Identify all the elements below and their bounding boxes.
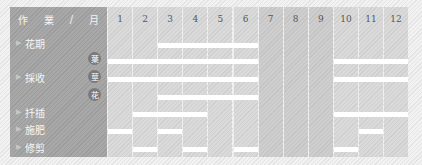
activity-bar <box>108 129 132 134</box>
activity-bar <box>133 112 207 117</box>
activity-bar <box>334 112 408 117</box>
activity-bar <box>158 43 257 48</box>
activity-bar <box>108 59 258 64</box>
row-label-flowering: ▶ 花期 <box>16 36 45 50</box>
activity-bar <box>334 147 358 152</box>
month-label: 11 <box>359 7 383 31</box>
month-label: 6 <box>234 7 258 31</box>
bullet-icon: ▶ <box>16 39 21 47</box>
activity-bar <box>158 95 257 100</box>
activity-bar <box>234 147 258 152</box>
badge-flower: 花 <box>88 88 101 101</box>
row-label-cutting: ▶ 扦插 <box>16 105 45 119</box>
month-label: 9 <box>309 7 333 31</box>
activity-bar <box>334 77 408 82</box>
row-label-harvest: ▶ 採收 <box>16 70 45 84</box>
row-label-pruning: ▶ 修剪 <box>16 140 45 154</box>
bullet-icon: ▶ <box>16 108 21 116</box>
month-label: 3 <box>158 7 182 31</box>
activity-bar <box>183 147 207 152</box>
header-char: 業 <box>44 12 54 27</box>
header-char: 月 <box>89 12 99 27</box>
cultivation-calendar: 作 業 / 月 ▶ 花期 葉 ▶ 採收 莖 花 ▶ 扦插 ▶ 施肥 ▶ 修剪 1… <box>10 7 410 157</box>
activity-bar <box>133 147 157 152</box>
badge-leaf: 葉 <box>88 52 101 65</box>
bullet-icon: ▶ <box>16 143 21 151</box>
month-label: 2 <box>133 7 157 31</box>
month-label: 12 <box>384 7 408 31</box>
bullet-icon: ▶ <box>16 125 21 133</box>
header-title: 作 業 / 月 <box>10 7 107 31</box>
month-label: 5 <box>208 7 232 31</box>
month-label: 10 <box>334 7 358 31</box>
month-label: 1 <box>108 7 132 31</box>
bullet-icon: ▶ <box>16 73 21 81</box>
header-char: 作 <box>18 12 28 27</box>
activity-bar <box>334 59 408 64</box>
activity-bar <box>359 129 383 134</box>
badge-stem: 莖 <box>88 70 101 83</box>
month-label: 7 <box>259 7 283 31</box>
row-label-fertilize: ▶ 施肥 <box>16 122 45 136</box>
month-label: 8 <box>284 7 308 31</box>
month-grid: 123456789101112 <box>108 7 410 157</box>
task-label-column: 作 業 / 月 ▶ 花期 葉 ▶ 採收 莖 花 ▶ 扦插 ▶ 施肥 ▶ 修剪 <box>10 7 107 157</box>
activity-bar <box>158 129 182 134</box>
activity-bar <box>108 77 258 82</box>
header-char: / <box>70 14 73 25</box>
month-label: 4 <box>183 7 207 31</box>
